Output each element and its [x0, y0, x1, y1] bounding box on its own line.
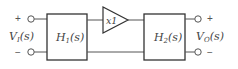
input-voltage-label: VI(s): [9, 30, 34, 44]
output-minus-sign: −: [207, 47, 213, 58]
input-minus-terminal: [28, 49, 34, 55]
buffer-amplifier: x1: [103, 7, 128, 33]
input-port: + − VI(s): [9, 13, 47, 58]
buffer-gain-label: x1: [106, 15, 117, 26]
output-voltage-label: VO(s): [196, 30, 224, 44]
input-plus-sign: +: [15, 13, 21, 24]
block-h1: H1(s): [47, 14, 87, 60]
output-plus-sign: +: [207, 13, 213, 24]
output-plus-terminal: [195, 16, 201, 22]
block-h2-label: H2(s): [153, 31, 182, 45]
output-minus-terminal: [195, 49, 201, 55]
block-h2: H2(s): [144, 14, 185, 60]
block-diagram: + − VI(s) H1(s) x1 H2(s) + − VO(s): [0, 0, 238, 69]
block-h1-label: H1(s): [55, 31, 84, 45]
input-minus-sign: −: [15, 47, 21, 58]
input-plus-terminal: [28, 16, 34, 22]
output-port: + − VO(s): [185, 13, 224, 58]
